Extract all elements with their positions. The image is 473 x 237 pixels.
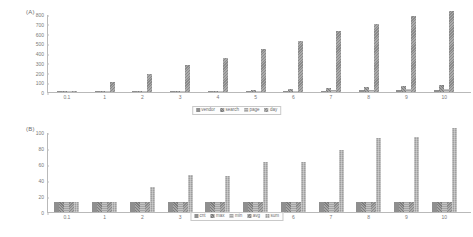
bar xyxy=(72,91,77,92)
legend-item: cnt xyxy=(194,214,206,219)
legend-item: day xyxy=(265,108,278,113)
x-tick-a-5: 5 xyxy=(254,95,257,100)
bar-groups-b: 0.112345678910 xyxy=(48,133,463,212)
legend-swatch-icon xyxy=(229,214,233,218)
y-tick-b-0: 0 xyxy=(41,211,47,216)
bar-group: 5 xyxy=(237,15,275,92)
bar xyxy=(110,82,115,92)
bar-group: 2 xyxy=(123,133,161,212)
y-tick-a-2: 200 xyxy=(36,71,47,76)
chart-panel-a: (A) 0100200300400500600700800 0.11234567… xyxy=(0,0,473,118)
x-tick-a-0: 0.1 xyxy=(63,95,70,100)
legend-swatch-icon xyxy=(196,108,200,112)
panel-b-label: (B) xyxy=(26,126,35,132)
bar-group: 10 xyxy=(425,15,463,92)
legend-item: avg xyxy=(247,214,260,219)
legend-swatch-icon xyxy=(247,214,251,218)
x-tick-b-7: 7 xyxy=(330,215,333,220)
bar xyxy=(261,49,266,92)
bar xyxy=(374,24,379,92)
bar-group: 2 xyxy=(123,15,161,92)
bar xyxy=(225,176,230,212)
x-tick-a-1: 1 xyxy=(103,95,106,100)
x-tick-b-9: 9 xyxy=(405,215,408,220)
legend-item: sum xyxy=(265,214,279,219)
legend-swatch-icon xyxy=(244,108,248,112)
bar xyxy=(336,31,341,92)
legend-label: max xyxy=(216,214,225,219)
y-tick-a-8: 800 xyxy=(36,13,47,18)
bar-group: 3 xyxy=(161,133,199,212)
bar-group: 1 xyxy=(86,15,124,92)
legend-label: day xyxy=(270,108,277,113)
y-tick-b-1: 20 xyxy=(38,195,47,200)
bar-group: 8 xyxy=(350,133,388,212)
x-tick-a-3: 3 xyxy=(179,95,182,100)
bar-group: 3 xyxy=(161,15,199,92)
x-tick-a-7: 7 xyxy=(330,95,333,100)
y-tick-b-5: 100 xyxy=(36,131,47,136)
bar-group: 7 xyxy=(312,15,350,92)
bar xyxy=(74,202,79,212)
y-tick-a-6: 600 xyxy=(36,32,47,37)
legend-swatch-icon xyxy=(265,108,269,112)
bar-group: 7 xyxy=(312,133,350,212)
bar xyxy=(301,162,306,212)
x-tick-b-6: 6 xyxy=(292,215,295,220)
legend-b: cntmaxminavgsum xyxy=(190,212,283,221)
legend-item: min xyxy=(229,214,242,219)
bar-group: 6 xyxy=(274,15,312,92)
x-tick-a-9: 9 xyxy=(405,95,408,100)
bar-group: 0.1 xyxy=(48,15,86,92)
x-tick-b-1: 1 xyxy=(103,215,106,220)
bar-group: 4 xyxy=(199,133,237,212)
bar-group: 0.1 xyxy=(48,133,86,212)
legend-label: sum xyxy=(271,214,280,219)
legend-swatch-icon xyxy=(210,214,214,218)
bar xyxy=(185,65,190,92)
y-tick-b-4: 80 xyxy=(38,147,47,152)
bar-group: 5 xyxy=(237,133,275,212)
y-tick-b-3: 60 xyxy=(38,163,47,168)
x-axis-a xyxy=(47,92,471,93)
x-tick-b-2: 2 xyxy=(141,215,144,220)
chart-panel-b: (B) 020406080100 0.112345678910 cntmaxmi… xyxy=(0,119,473,237)
bar-group: 10 xyxy=(425,133,463,212)
bar xyxy=(263,162,268,212)
bar xyxy=(376,138,381,212)
x-tick-a-2: 2 xyxy=(141,95,144,100)
bar xyxy=(112,202,117,212)
bar xyxy=(411,16,416,92)
bar-group: 4 xyxy=(199,15,237,92)
bar-groups-a: 0.112345678910 xyxy=(48,15,463,92)
legend-a: vendorsearchpageday xyxy=(192,106,282,115)
x-tick-a-10: 10 xyxy=(441,95,447,100)
x-tick-a-8: 8 xyxy=(367,95,370,100)
bar-group: 1 xyxy=(86,133,124,212)
bar xyxy=(188,175,193,212)
bar xyxy=(452,128,457,212)
panel-a-label: (A) xyxy=(26,9,35,15)
legend-label: avg xyxy=(253,214,260,219)
legend-label: min xyxy=(235,214,242,219)
x-tick-b-10: 10 xyxy=(441,215,447,220)
x-tick-b-8: 8 xyxy=(367,215,370,220)
bar xyxy=(150,187,155,212)
legend-item: search xyxy=(220,108,239,113)
legend-item: max xyxy=(210,214,224,219)
bar-group: 9 xyxy=(388,15,426,92)
bar xyxy=(298,41,303,92)
legend-item: page xyxy=(244,108,260,113)
x-tick-b-0: 0.1 xyxy=(63,215,70,220)
bar-group: 8 xyxy=(350,15,388,92)
bar-group: 6 xyxy=(274,133,312,212)
y-tick-a-0: 0 xyxy=(41,91,47,96)
legend-label: vendor xyxy=(201,108,215,113)
y-tick-a-7: 700 xyxy=(36,22,47,27)
legend-item: vendor xyxy=(196,108,215,113)
bar xyxy=(223,58,228,92)
legend-label: cnt xyxy=(199,214,205,219)
legend-swatch-icon xyxy=(194,214,198,218)
bar xyxy=(339,150,344,212)
x-tick-a-4: 4 xyxy=(216,95,219,100)
